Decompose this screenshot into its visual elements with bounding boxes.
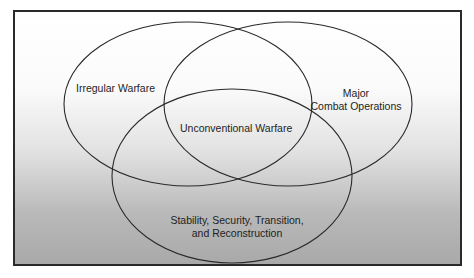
irregular-warfare-label: Irregular Warfare [76, 82, 155, 95]
irregular-warfare-ellipse [64, 22, 312, 186]
major-combat-line1: Major [316, 87, 396, 100]
unconventional-warfare-label: Unconventional Warfare [180, 122, 292, 135]
stability-line1: Stability, Security, Transition, [162, 214, 312, 227]
major-combat-operations-label: Major Combat Operations [316, 87, 396, 113]
stability-label: Stability, Security, Transition, and Rec… [162, 214, 312, 240]
stability-line2: and Reconstruction [162, 227, 312, 240]
major-combat-line2: Combat Operations [306, 100, 406, 113]
